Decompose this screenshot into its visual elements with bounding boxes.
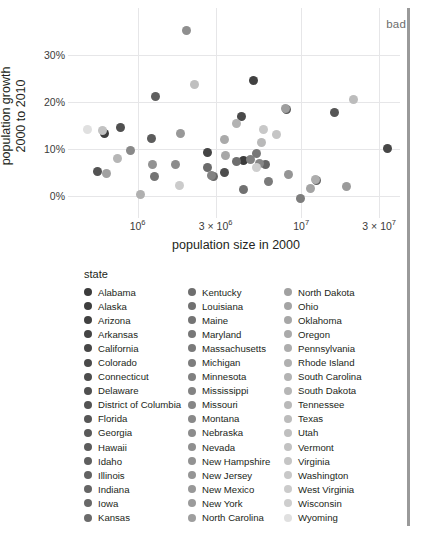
legend-item[interactable]: California bbox=[84, 341, 188, 355]
legend-item[interactable]: Montana bbox=[188, 412, 284, 426]
bad-marker-rule bbox=[407, 8, 410, 526]
legend-item[interactable]: Nebraska bbox=[188, 426, 284, 440]
x-axis-tick-label: 3 × 106 bbox=[199, 218, 233, 232]
legend-swatch-icon bbox=[84, 415, 92, 423]
legend-item[interactable]: Maryland bbox=[188, 327, 284, 341]
legend-item-label: Maine bbox=[202, 315, 228, 326]
legend-item[interactable]: North Dakota bbox=[284, 285, 394, 299]
legend-item-label: Hawaii bbox=[98, 442, 127, 453]
legend-item[interactable]: Arizona bbox=[84, 313, 188, 327]
scatter-point bbox=[126, 146, 135, 155]
legend-item[interactable]: Pennsylvania bbox=[284, 341, 394, 355]
legend-item[interactable]: Oregon bbox=[284, 327, 394, 341]
scatter-point bbox=[232, 157, 241, 166]
legend-item-label: Montana bbox=[202, 413, 239, 424]
legend-item[interactable]: Michigan bbox=[188, 355, 284, 369]
legend-item[interactable]: Louisiana bbox=[188, 299, 284, 313]
scatter-point bbox=[296, 194, 305, 203]
legend-item-label: Idaho bbox=[98, 456, 122, 467]
legend-item[interactable]: Alabama bbox=[84, 285, 188, 299]
legend-swatch-icon bbox=[84, 288, 92, 296]
legend-item[interactable]: Iowa bbox=[84, 496, 188, 510]
legend-swatch-icon bbox=[84, 485, 92, 493]
legend-swatch-icon bbox=[188, 499, 196, 507]
legend-item[interactable]: Georgia bbox=[84, 426, 188, 440]
legend-swatch-icon bbox=[84, 401, 92, 409]
legend-item-label: Arizona bbox=[98, 315, 131, 326]
legend-item[interactable]: Minnesota bbox=[188, 370, 284, 384]
legend-swatch-icon bbox=[84, 359, 92, 367]
x-gridline bbox=[379, 8, 380, 218]
scatter-point bbox=[383, 144, 392, 153]
scatter-point bbox=[116, 123, 125, 132]
legend-item[interactable]: Wisconsin bbox=[284, 496, 394, 510]
legend-item[interactable]: Illinois bbox=[84, 468, 188, 482]
scatter-point bbox=[349, 95, 358, 104]
legend-item[interactable]: Tennessee bbox=[284, 398, 394, 412]
legend-item[interactable]: Kentucky bbox=[188, 285, 284, 299]
legend-item-label: Michigan bbox=[202, 357, 240, 368]
legend-item[interactable]: Nevada bbox=[188, 440, 284, 454]
legend-item[interactable]: Delaware bbox=[84, 384, 188, 398]
legend-item[interactable]: North Carolina bbox=[188, 511, 284, 525]
legend-item[interactable]: Florida bbox=[84, 412, 188, 426]
scatter-point bbox=[342, 182, 351, 191]
legend-item[interactable]: Alaska bbox=[84, 299, 188, 313]
legend-item-label: Maryland bbox=[202, 329, 241, 340]
scatter-point bbox=[102, 169, 111, 178]
scatter-point bbox=[113, 154, 122, 163]
legend-item[interactable]: Colorado bbox=[84, 355, 188, 369]
y-axis-tick-label: 20% bbox=[44, 96, 65, 108]
legend-item[interactable]: South Carolina bbox=[284, 370, 394, 384]
legend-item[interactable]: West Virginia bbox=[284, 482, 394, 496]
legend-item[interactable]: Hawaii bbox=[84, 440, 188, 454]
legend-item-label: District of Columbia bbox=[98, 399, 181, 410]
x-axis-tick-label: 106 bbox=[130, 218, 146, 232]
legend-item[interactable]: Mississippi bbox=[188, 384, 284, 398]
legend-swatch-icon bbox=[284, 443, 292, 451]
legend-item-label: Florida bbox=[98, 413, 127, 424]
legend-item[interactable]: New Hampshire bbox=[188, 454, 284, 468]
scatter-point bbox=[264, 177, 273, 186]
legend-item[interactable]: New York bbox=[188, 496, 284, 510]
legend-item[interactable]: Virginia bbox=[284, 454, 394, 468]
legend-item-label: Kentucky bbox=[202, 287, 241, 298]
scatter-point bbox=[249, 76, 258, 85]
legend-swatch-icon bbox=[188, 429, 196, 437]
legend-item[interactable]: Texas bbox=[284, 412, 394, 426]
legend-item-label: Rhode Island bbox=[298, 357, 355, 368]
legend-item-label: North Carolina bbox=[202, 512, 264, 523]
legend-swatch-icon bbox=[84, 457, 92, 465]
scatter-point bbox=[221, 151, 230, 160]
legend-item[interactable]: Oklahoma bbox=[284, 313, 394, 327]
legend-item[interactable]: New Mexico bbox=[188, 482, 284, 496]
legend-item-label: Wisconsin bbox=[298, 498, 342, 509]
legend-item-label: Wyoming bbox=[298, 512, 338, 523]
legend-swatch-icon bbox=[284, 485, 292, 493]
legend-item-label: Missouri bbox=[202, 399, 238, 410]
legend-item[interactable]: Indiana bbox=[84, 482, 188, 496]
legend-item[interactable]: Vermont bbox=[284, 440, 394, 454]
legend-item-label: New Jersey bbox=[202, 470, 252, 481]
legend-item[interactable]: Kansas bbox=[84, 511, 188, 525]
y-axis-label-line1: population growth bbox=[0, 67, 13, 166]
legend-item[interactable]: Ohio bbox=[284, 299, 394, 313]
legend-item[interactable]: Arkansas bbox=[84, 327, 188, 341]
legend-item[interactable]: Rhode Island bbox=[284, 355, 394, 369]
legend-item[interactable]: District of Columbia bbox=[84, 398, 188, 412]
legend-item[interactable]: New Jersey bbox=[188, 468, 284, 482]
legend-item[interactable]: Massachusetts bbox=[188, 341, 284, 355]
scatter-point bbox=[252, 163, 261, 172]
legend-item[interactable]: Wyoming bbox=[284, 511, 394, 525]
legend-item-label: Minnesota bbox=[202, 371, 246, 382]
legend-item[interactable]: Washington bbox=[284, 468, 394, 482]
legend-item[interactable]: Missouri bbox=[188, 398, 284, 412]
x-gridline bbox=[138, 8, 139, 218]
legend-item[interactable]: South Dakota bbox=[284, 384, 394, 398]
legend-item[interactable]: Maine bbox=[188, 313, 284, 327]
legend-item-label: Alabama bbox=[98, 287, 136, 298]
legend-item-label: Colorado bbox=[98, 357, 137, 368]
legend-item[interactable]: Idaho bbox=[84, 454, 188, 468]
legend-item[interactable]: Utah bbox=[284, 426, 394, 440]
legend-item[interactable]: Connecticut bbox=[84, 370, 188, 384]
